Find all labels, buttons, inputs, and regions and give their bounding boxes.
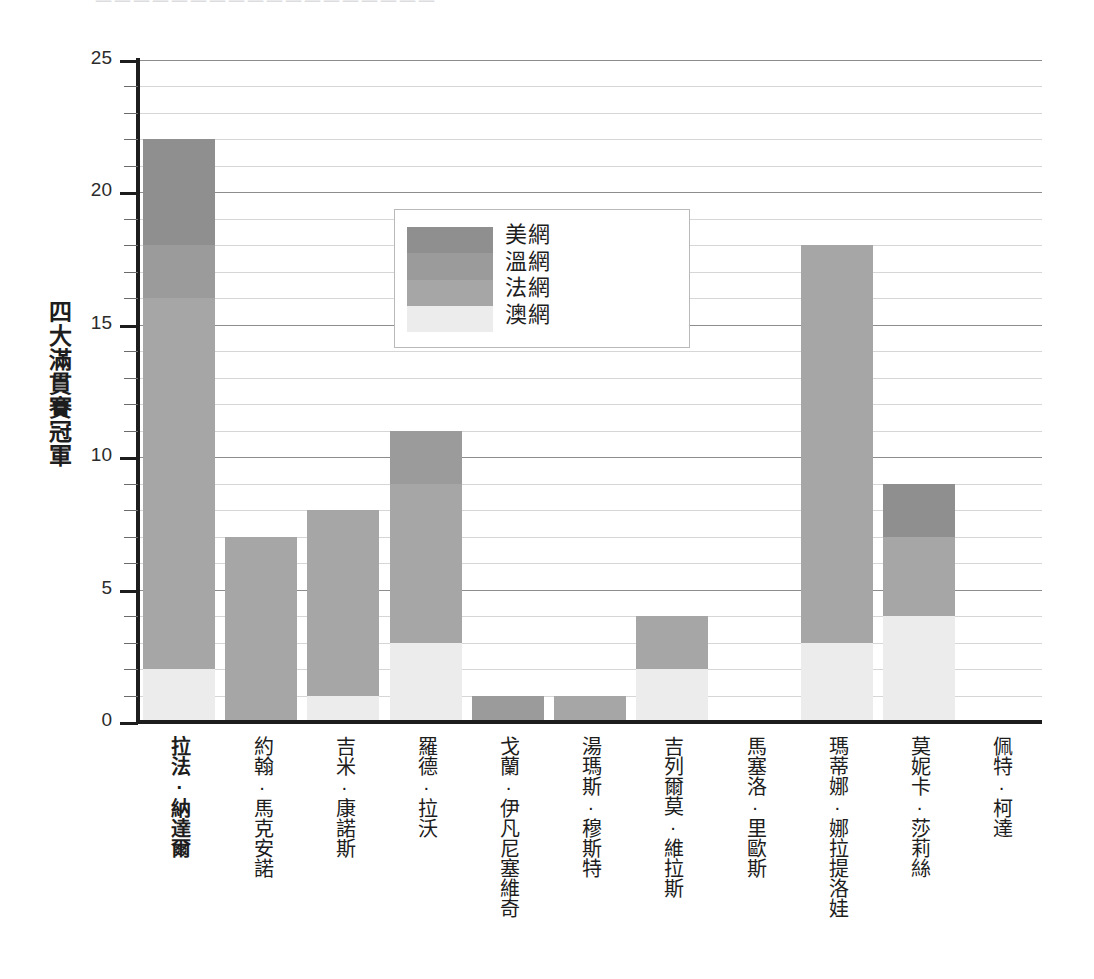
bar-segment-溫網 [472, 696, 544, 722]
y-axis-tick [124, 510, 138, 511]
bar-segment-法網 [636, 616, 708, 669]
bar-segment-美網 [883, 484, 955, 537]
legend-swatch-澳網 [407, 306, 493, 332]
y-axis-tick [124, 643, 138, 644]
bar-segment-澳網 [636, 669, 708, 722]
bar-1 [143, 60, 215, 722]
bar-4 [390, 60, 462, 722]
x-axis-category-label-11: 佩特·柯達 [961, 736, 1041, 843]
bar-8 [718, 60, 790, 722]
bar-segment-法網 [307, 510, 379, 695]
legend-label-list: 美網溫網法網澳網 [505, 222, 551, 328]
y-axis-tick [124, 113, 138, 114]
bar-segment-澳網 [143, 669, 215, 722]
x-axis-label-text: 吉米·康諾斯 [333, 736, 355, 858]
bar-segment-澳網 [307, 696, 379, 722]
bar-7 [636, 60, 708, 722]
bar-segment-法網 [801, 245, 873, 642]
legend-label-美網: 美網 [505, 222, 551, 249]
stacked-bar-chart: 四大滿貫賽冠軍 0510152025 拉法·納達爾約翰·馬克安諾吉米·康諾斯羅德… [0, 0, 1094, 979]
y-axis-tick [124, 484, 138, 485]
bar-segment-法網 [554, 696, 626, 722]
x-axis-label-text: 拉法·納達爾 [168, 736, 190, 858]
x-axis-category-label-3: 吉米·康諾斯 [303, 736, 383, 863]
bar-6 [554, 60, 626, 722]
legend-swatch-法網 [407, 280, 493, 306]
x-axis-label-text: 湯瑪斯·穆斯特 [579, 736, 601, 878]
bar-segment-澳網 [883, 616, 955, 722]
y-axis-tick [120, 325, 138, 328]
x-axis-category-label-2: 約翰·馬克安諾 [221, 736, 301, 883]
y-axis-tick [124, 298, 138, 299]
y-axis-tick [124, 563, 138, 564]
legend-label-澳網: 澳網 [505, 302, 551, 329]
y-axis-tick [120, 722, 138, 725]
bar-segment-法網 [225, 537, 297, 722]
x-axis-label-text: 羅德·拉沃 [415, 736, 437, 838]
y-axis-tick [124, 696, 138, 697]
legend-color-swatch [407, 227, 493, 332]
x-axis-category-label-10: 莫妮卡·莎莉絲 [879, 736, 959, 883]
y-axis-tick [124, 166, 138, 167]
x-axis-label-text: 莫妮卡·莎莉絲 [908, 736, 930, 878]
x-axis-label-text: 瑪蒂娜·娜拉提洛娃 [826, 736, 848, 918]
bar-9 [801, 60, 873, 722]
bar-segment-溫網 [390, 431, 462, 484]
x-axis-category-label-5: 戈蘭·伊凡尼塞維奇 [468, 736, 548, 923]
bar-11 [965, 60, 1037, 722]
y-axis-tick [120, 457, 138, 460]
y-axis-line [136, 58, 140, 724]
y-axis-tick [124, 86, 138, 87]
y-axis-tick [124, 272, 138, 273]
y-axis-tick [124, 669, 138, 670]
legend-swatch-美網 [407, 227, 493, 253]
bar-10 [883, 60, 955, 722]
bar-segment-溫網 [143, 245, 215, 298]
x-axis-category-label-1: 拉法·納達爾 [139, 736, 219, 863]
plot-area [138, 60, 1042, 722]
y-axis-tick [124, 616, 138, 617]
x-axis-category-label-4: 羅德·拉沃 [386, 736, 466, 843]
y-axis-tick-label: 10 [72, 444, 112, 466]
bar-2 [225, 60, 297, 722]
x-axis-category-label-9: 瑪蒂娜·娜拉提洛娃 [797, 736, 877, 923]
y-axis-tick [124, 431, 138, 432]
x-axis-label-text: 約翰·馬克安諾 [250, 736, 272, 878]
bar-segment-美網 [143, 139, 215, 245]
x-axis-label-text: 吉列爾莫·維拉斯 [661, 736, 683, 898]
x-axis-label-text: 佩特·柯達 [990, 736, 1012, 838]
y-axis-tick [120, 60, 138, 63]
y-axis-tick-label: 15 [72, 312, 112, 334]
y-axis-tick [124, 537, 138, 538]
y-axis-tick-label: 5 [72, 577, 112, 599]
x-axis-category-label-7: 吉列爾莫·維拉斯 [632, 736, 712, 903]
bar-segment-澳網 [390, 643, 462, 722]
y-axis-tick [120, 192, 138, 195]
y-axis-tick [124, 378, 138, 379]
y-axis-tick [124, 404, 138, 405]
y-axis-tick [124, 219, 138, 220]
y-axis-tick-label: 20 [72, 179, 112, 201]
y-axis-tick [124, 139, 138, 140]
legend-label-溫網: 溫網 [505, 249, 551, 276]
x-axis-category-label-6: 湯瑪斯·穆斯特 [550, 736, 630, 883]
x-axis-label-text: 戈蘭·伊凡尼塞維奇 [497, 736, 519, 918]
x-axis-category-label-8: 馬塞洛·里歐斯 [714, 736, 794, 883]
y-axis-tick-label: 25 [72, 47, 112, 69]
y-axis-tick [124, 351, 138, 352]
y-axis-title: 四大滿貫賽冠軍 [46, 300, 70, 468]
chart-legend: 美網溫網法網澳網 [394, 209, 690, 348]
x-axis-label-text: 馬塞洛·里歐斯 [744, 736, 766, 878]
bar-3 [307, 60, 379, 722]
x-axis-line [136, 720, 1042, 724]
bar-segment-法網 [390, 484, 462, 643]
bar-5 [472, 60, 544, 722]
bar-segment-法網 [883, 537, 955, 616]
bar-segment-澳網 [801, 643, 873, 722]
y-axis-tick-label: 0 [72, 709, 112, 731]
y-axis-tick [120, 590, 138, 593]
legend-label-法網: 法網 [505, 275, 551, 302]
legend-swatch-溫網 [407, 253, 493, 279]
bar-segment-法網 [143, 298, 215, 669]
y-axis-tick [124, 245, 138, 246]
